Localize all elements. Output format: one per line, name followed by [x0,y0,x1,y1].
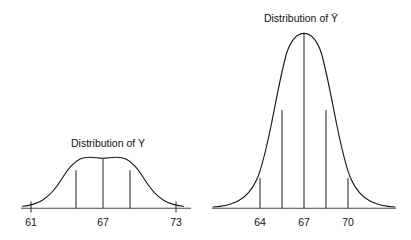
plot-title-Y-bar: Distribution of Ȳ [264,12,338,24]
tick-label-67-bar: 67 [298,216,310,228]
plot-distribution-of-Y-bar: Distribution of Ȳ 64 67 70 [212,12,396,228]
plot-title-Y: Distribution of Y [71,137,145,149]
tick-label-61: 61 [25,216,37,228]
tick-label-73: 73 [170,216,182,228]
plot-distribution-of-Y: Distribution of Y 61 67 73 [21,137,191,228]
tick-label-70: 70 [342,216,354,228]
tick-label-67: 67 [97,216,109,228]
distribution-comparison-figure: Distribution of Y 61 67 73 Distribution … [0,0,411,240]
tick-label-64: 64 [254,216,266,228]
